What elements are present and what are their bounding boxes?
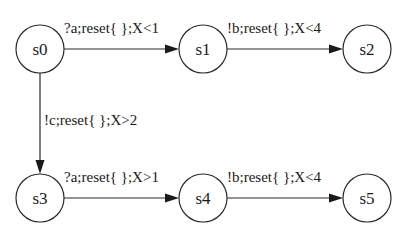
state-node-s3: s3 — [16, 174, 64, 222]
state-node-s0: s0 — [16, 25, 64, 73]
state-label-s1: s1 — [195, 40, 210, 59]
state-node-s1: s1 — [179, 25, 227, 73]
edge-s0-s3: !c;reset{ };X>2 — [36, 73, 138, 174]
state-label-s3: s3 — [32, 189, 47, 208]
arrowhead-icon — [36, 160, 45, 174]
state-label-s4: s4 — [195, 189, 211, 208]
edge-label-s1-s2: !b;reset{ };X<4 — [227, 20, 322, 36]
edge-s0-s1: ?a;reset{ };X<1 — [64, 20, 179, 54]
edge-label-s0-s3: !c;reset{ };X>2 — [44, 112, 137, 128]
state-node-s2: s2 — [343, 25, 391, 73]
state-label-s2: s2 — [359, 40, 374, 59]
state-diagram: ?a;reset{ };X<1 !b;reset{ };X<4 !c;reset… — [0, 0, 413, 235]
edge-label-s4-s5: !b;reset{ };X<4 — [227, 169, 322, 185]
arrowhead-icon — [165, 45, 179, 54]
state-node-s5: s5 — [343, 174, 391, 222]
edge-s1-s2: !b;reset{ };X<4 — [227, 20, 343, 54]
edge-label-s0-s1: ?a;reset{ };X<1 — [64, 20, 159, 36]
state-label-s5: s5 — [359, 189, 374, 208]
state-node-s4: s4 — [179, 174, 227, 222]
state-label-s0: s0 — [32, 40, 47, 59]
arrowhead-icon — [329, 194, 343, 203]
edge-s4-s5: !b;reset{ };X<4 — [227, 169, 343, 203]
arrowhead-icon — [329, 45, 343, 54]
edge-label-s3-s4: ?a;reset{ };X>1 — [64, 169, 159, 185]
arrowhead-icon — [165, 194, 179, 203]
edge-s3-s4: ?a;reset{ };X>1 — [64, 169, 179, 203]
